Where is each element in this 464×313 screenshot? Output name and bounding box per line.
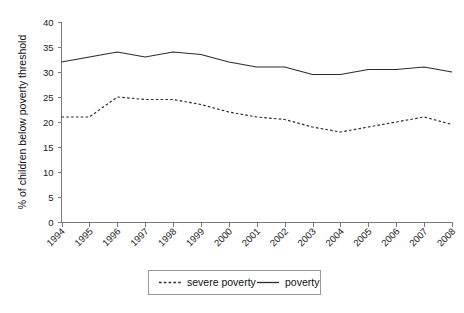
x-tick-label: 2007 (407, 226, 430, 249)
x-tick-label: 1998 (156, 226, 179, 249)
y-tick-label: 15 (43, 142, 54, 153)
x-tick-label: 2000 (212, 226, 235, 249)
x-tick-label: 2004 (323, 226, 346, 249)
x-tick-label: 1995 (72, 226, 95, 249)
poverty-line-chart: % of children below poverty threshold 05… (0, 0, 464, 313)
y-axis-title: % of children below poverty threshold (16, 35, 28, 210)
legend-label-poverty: poverty (285, 276, 320, 288)
legend-label-severe-poverty: severe poverty (187, 276, 257, 288)
x-tick-label: 2006 (379, 226, 402, 249)
y-tick-label: 0 (48, 217, 53, 228)
y-axis-title-text: % of children below poverty threshold (16, 35, 28, 210)
chart-legend: severe poverty poverty (149, 271, 321, 295)
y-axis-ticks: 0510152025303540 (43, 17, 62, 228)
y-tick-label: 30 (43, 67, 54, 78)
series-group (62, 52, 453, 132)
x-tick-label: 2008 (435, 226, 458, 249)
x-tick-label: 2005 (351, 226, 374, 249)
y-tick-label: 20 (43, 117, 54, 128)
series-line-severe-poverty (62, 97, 453, 132)
x-tick-label: 1996 (100, 226, 123, 249)
x-tick-label: 1994 (44, 226, 67, 249)
y-tick-label: 5 (48, 192, 53, 203)
x-tick-label: 1999 (184, 226, 207, 249)
x-axis-ticks: 1994199519961997199819992000200120022003… (44, 222, 457, 248)
x-tick-label: 1997 (128, 226, 151, 249)
y-tick-label: 10 (43, 167, 54, 178)
x-tick-label: 2001 (239, 226, 262, 249)
x-tick-label: 2003 (295, 226, 318, 249)
series-line-poverty (62, 52, 453, 75)
x-tick-label: 2002 (267, 226, 290, 249)
y-tick-label: 35 (43, 42, 54, 53)
chart-container: % of children below poverty threshold 05… (0, 0, 464, 313)
y-tick-label: 40 (43, 17, 54, 28)
y-tick-label: 25 (43, 92, 54, 103)
